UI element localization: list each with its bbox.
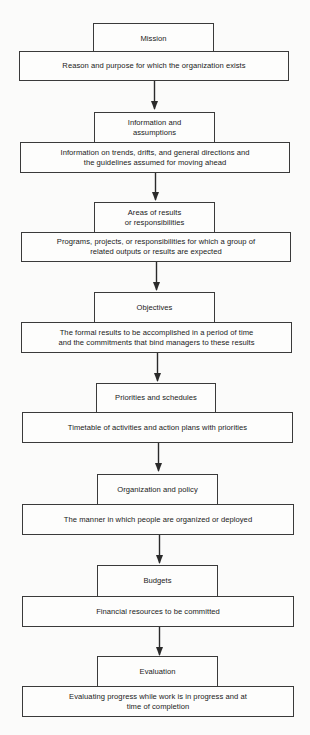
step-8-description-box: Evaluating progress while work is in pro… bbox=[22, 686, 294, 717]
step-5-title-box: Priorities and schedules bbox=[96, 383, 216, 412]
step-7-description-box: Financial resources to be committed bbox=[22, 596, 294, 627]
step-3-description-box: Programs, projects, or responsibilities … bbox=[21, 232, 291, 262]
step-6-description: The manner in which people are organized… bbox=[64, 515, 252, 525]
step-1-title-box: Mission bbox=[93, 23, 214, 53]
step-1-description-box: Reason and purpose for which the organiz… bbox=[19, 51, 289, 81]
arrow-down-icon bbox=[153, 353, 162, 383]
arrow-down-icon bbox=[151, 172, 160, 202]
step-2-description: Information on trends, drifts, and gener… bbox=[60, 148, 249, 168]
step-8-title: Evaluation bbox=[140, 667, 176, 677]
step-3-description: Programs, projects, or responsibilities … bbox=[57, 237, 255, 257]
step-2-title-box: Information and assumptions bbox=[94, 112, 215, 142]
step-8-description: Evaluating progress while work is in pro… bbox=[69, 692, 247, 712]
flowchart: Mission Reason and purpose for which the… bbox=[0, 0, 310, 735]
step-3-title: Areas of results or responsibilities bbox=[125, 208, 185, 228]
step-5-description-box: Timetable of activities and action plans… bbox=[22, 412, 293, 443]
step-2-title: Information and assumptions bbox=[128, 118, 182, 138]
arrow-down-icon bbox=[150, 81, 159, 111]
step-2-description-box: Information on trends, drifts, and gener… bbox=[20, 142, 290, 173]
step-4-title-box: Objectives bbox=[94, 292, 215, 322]
step-4-description-box: The formal results to be accomplished in… bbox=[21, 322, 292, 353]
step-6-title-box: Organization and policy bbox=[97, 474, 218, 504]
arrow-down-icon bbox=[155, 535, 164, 565]
step-3-title-box: Areas of results or responsibilities bbox=[94, 202, 215, 232]
arrow-down-icon bbox=[152, 262, 161, 292]
step-4-title: Objectives bbox=[137, 303, 173, 313]
step-4-description: The formal results to be accomplished in… bbox=[58, 328, 254, 348]
step-7-description: Financial resources to be committed bbox=[96, 607, 220, 617]
step-1-title: Mission bbox=[140, 34, 166, 44]
step-7-title-box: Budgets bbox=[97, 565, 218, 596]
step-5-title: Priorities and schedules bbox=[115, 393, 197, 403]
step-7-title: Budgets bbox=[143, 576, 171, 586]
step-8-title-box: Evaluation bbox=[97, 656, 218, 686]
step-6-title: Organization and policy bbox=[117, 485, 198, 495]
step-6-description-box: The manner in which people are organized… bbox=[22, 504, 294, 535]
arrow-down-icon bbox=[154, 443, 163, 473]
step-1-description: Reason and purpose for which the organiz… bbox=[62, 61, 245, 71]
step-5-description: Timetable of activities and action plans… bbox=[68, 423, 247, 433]
arrow-down-icon bbox=[155, 627, 164, 657]
